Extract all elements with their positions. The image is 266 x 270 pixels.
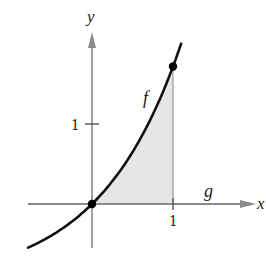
x-axis-arrow-icon bbox=[240, 200, 256, 208]
y-axis-label: y bbox=[85, 7, 95, 26]
curve-f-label: f bbox=[143, 88, 151, 108]
y-axis-arrow-icon bbox=[88, 32, 96, 48]
x-axis-label: x bbox=[256, 194, 265, 213]
shaded-area-region bbox=[92, 67, 173, 205]
chart-canvas: y x 1 1 f g bbox=[0, 0, 266, 270]
x-tick-label-1: 1 bbox=[169, 212, 177, 229]
y-tick-label-1: 1 bbox=[71, 116, 79, 133]
point-f-at-1 bbox=[169, 62, 177, 70]
curve-g-label: g bbox=[204, 181, 213, 201]
point-origin bbox=[88, 200, 96, 208]
